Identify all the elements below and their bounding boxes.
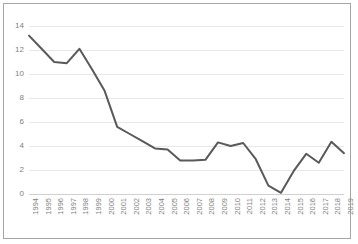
x-tick-label-1998: 1998: [82, 198, 90, 228]
x-tick-label-2002: 2002: [133, 198, 141, 228]
x-tick-label-2010: 2010: [234, 198, 242, 228]
x-tick-label-2000: 2000: [108, 198, 116, 228]
x-tick-label-1996: 1996: [57, 198, 65, 228]
x-tick-label-2019: 2019: [347, 198, 355, 228]
x-tick-label-1994: 1994: [32, 198, 40, 228]
x-tick-label-1997: 1997: [70, 198, 78, 228]
x-tick-label-2017: 2017: [322, 198, 330, 228]
x-tick-label-2016: 2016: [309, 198, 317, 228]
x-tick-label-2015: 2015: [297, 198, 305, 228]
x-tick-label-2007: 2007: [196, 198, 204, 228]
x-tick-label-2012: 2012: [259, 198, 267, 228]
x-tick-label-1999: 1999: [95, 198, 103, 228]
x-tick-label-2009: 2009: [221, 198, 229, 228]
x-tick-label-2004: 2004: [158, 198, 166, 228]
x-tick-label-1995: 1995: [45, 198, 53, 228]
x-tick-label-2005: 2005: [171, 198, 179, 228]
x-tick-label-2001: 2001: [120, 198, 128, 228]
x-tick-label-2008: 2008: [208, 198, 216, 228]
x-tick-label-2003: 2003: [145, 198, 153, 228]
plot-area: 02468101214 1994199519961997199819992000…: [4, 4, 352, 240]
x-tick-label-2018: 2018: [334, 198, 342, 228]
line-series-path: [29, 36, 344, 193]
x-axis-tick-labels: 1994199519961997199819992000200120022003…: [4, 196, 352, 240]
x-tick-label-2011: 2011: [246, 198, 254, 228]
x-tick-label-2014: 2014: [284, 198, 292, 228]
x-tick-label-2006: 2006: [183, 198, 191, 228]
chart-frame: 02468101214 1994199519961997199819992000…: [3, 3, 351, 239]
x-tick-label-2013: 2013: [271, 198, 279, 228]
